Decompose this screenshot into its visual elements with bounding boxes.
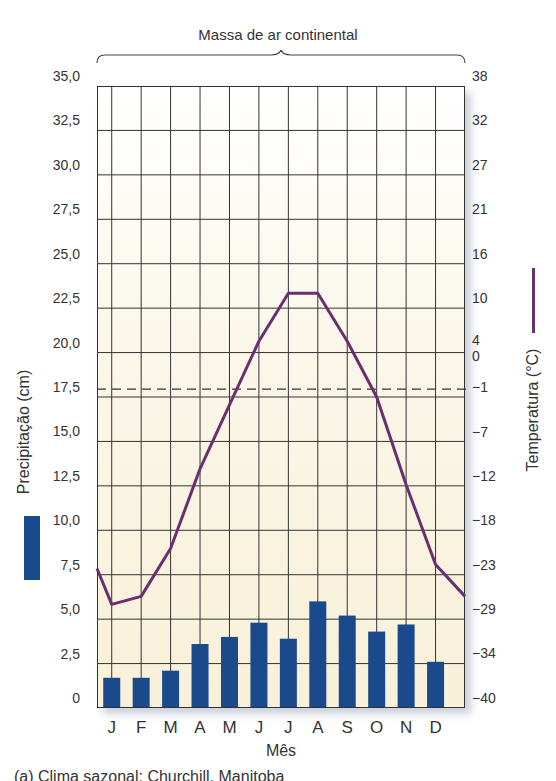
month-label: J: [249, 718, 269, 738]
right-tick-label: −1: [472, 379, 488, 395]
month-label: A: [308, 718, 328, 738]
right-tick-label: 0: [472, 348, 480, 364]
precipitation-bar: [339, 616, 356, 707]
temperature-line: [97, 293, 465, 604]
left-tick-label: 32,5: [53, 112, 80, 128]
right-tick-label: 4: [472, 332, 480, 348]
precipitation-bar: [103, 678, 120, 707]
right-tick-label: 32: [472, 112, 488, 128]
precipitation-bar: [427, 662, 444, 707]
month-label: N: [396, 718, 416, 738]
left-tick-label: 22,5: [53, 290, 80, 306]
month-label: O: [367, 718, 387, 738]
month-label: F: [131, 718, 151, 738]
month-label: M: [219, 718, 239, 738]
left-tick-label: 7,5: [61, 557, 80, 573]
left-tick-label: 15,0: [53, 423, 80, 439]
precipitation-bar: [398, 624, 415, 707]
left-tick-label: 2,5: [61, 646, 80, 662]
precipitation-bar: [309, 601, 326, 707]
right-tick-label: −34: [472, 645, 496, 661]
left-tick-label: 20,0: [53, 335, 80, 351]
right-tick-label: 21: [472, 201, 488, 217]
figure-caption: (a) Clima sazonal: Churchill, Manitoba: [14, 768, 284, 781]
precipitation-bar: [368, 632, 385, 707]
right-tick-label: −40: [472, 690, 496, 706]
precipitation-legend-swatch: [24, 516, 40, 580]
left-tick-label: 5,0: [61, 601, 80, 617]
month-label: A: [190, 718, 210, 738]
right-tick-label: 16: [472, 246, 488, 262]
left-tick-label: 10,0: [53, 512, 80, 528]
month-label: J: [102, 718, 122, 738]
right-axis-label: Temperatura (°C): [524, 349, 542, 472]
left-tick-label: 12,5: [53, 468, 80, 484]
left-tick-label: 35,0: [53, 68, 80, 84]
left-tick-label: 25,0: [53, 246, 80, 262]
month-label: D: [426, 718, 446, 738]
right-tick-label: −12: [472, 468, 496, 484]
month-label: S: [337, 718, 357, 738]
precipitation-bar: [280, 639, 297, 707]
right-tick-label: 10: [472, 290, 488, 306]
right-tick-label: −18: [472, 512, 496, 528]
precipitation-bar: [250, 623, 267, 707]
left-tick-label: 27,5: [53, 201, 80, 217]
left-tick-label: 17,5: [53, 379, 80, 395]
x-axis-label: Mês: [0, 742, 556, 760]
right-tick-label: 38: [472, 68, 488, 84]
precipitation-bar: [133, 678, 150, 707]
temperature-legend-swatch: [532, 268, 535, 333]
month-label: J: [278, 718, 298, 738]
right-tick-label: −7: [472, 424, 488, 440]
left-tick-label: 30,0: [53, 157, 80, 173]
right-tick-label: −23: [472, 557, 496, 573]
precipitation-bar: [221, 637, 238, 707]
left-axis-label: Precipitação (cm): [15, 370, 33, 494]
right-tick-label: −29: [472, 601, 496, 617]
precipitation-bar: [192, 644, 209, 707]
month-label: M: [161, 718, 181, 738]
right-tick-label: 27: [472, 157, 488, 173]
left-tick-label: 0: [72, 690, 80, 706]
precipitation-bar: [162, 671, 179, 707]
